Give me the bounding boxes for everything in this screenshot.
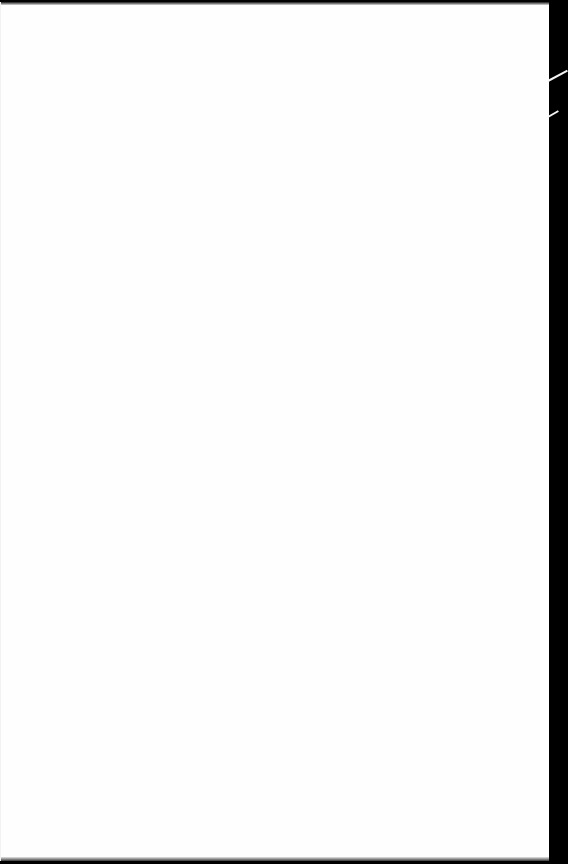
top-edge-shadow — [1, 2, 550, 5]
blank-page — [0, 2, 550, 861]
book-spine-shadow — [549, 0, 568, 864]
bottom-edge-shadow — [1, 857, 550, 861]
page-content — [41, 42, 510, 821]
